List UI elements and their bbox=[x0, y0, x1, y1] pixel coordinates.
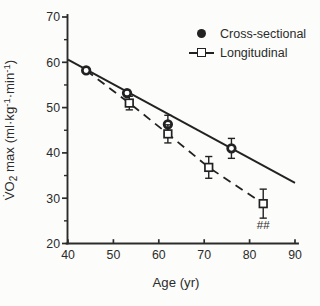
x-tick-label: 60 bbox=[152, 248, 166, 262]
regression-line-cross-sectional bbox=[68, 60, 295, 183]
x-axis-title: Age (yr) bbox=[153, 275, 200, 290]
data-point-square bbox=[205, 164, 213, 172]
y-tick-label: 20 bbox=[46, 237, 60, 251]
open-square-line-icon bbox=[187, 43, 216, 62]
x-tick-label: 80 bbox=[243, 248, 257, 262]
series-longitudinal bbox=[125, 96, 267, 218]
y-axis-ticks: 706050403020 bbox=[46, 10, 67, 251]
y-tick-label: 30 bbox=[46, 192, 60, 206]
x-axis-ticks: 405060708090 bbox=[61, 239, 302, 261]
y-tick-label: 60 bbox=[46, 56, 60, 70]
legend-label-cross-sectional: Cross-sectional bbox=[220, 27, 306, 41]
legend-item-longitudinal: Longitudinal bbox=[187, 43, 306, 62]
x-tick-label: 90 bbox=[288, 248, 302, 262]
legend-item-cross-sectional: Cross-sectional bbox=[187, 24, 306, 43]
y-tick-label: 50 bbox=[46, 101, 60, 115]
x-tick-label: 40 bbox=[61, 248, 75, 262]
y-tick-label: 70 bbox=[46, 10, 60, 24]
vo2max-age-chart: 706050403020405060708090Age (yr)V̇O2 max… bbox=[0, 0, 320, 306]
filled-circle-icon bbox=[187, 24, 216, 43]
y-axis-title: V̇O2 max (ml·kg-1·min-1) bbox=[1, 60, 19, 200]
x-tick-label: 70 bbox=[197, 248, 211, 262]
data-point-square bbox=[164, 130, 172, 138]
y-tick-label: 40 bbox=[46, 146, 60, 160]
data-point-square bbox=[259, 200, 267, 208]
data-point-square bbox=[125, 99, 133, 107]
data-point-circle bbox=[82, 67, 90, 75]
x-tick-label: 50 bbox=[107, 248, 121, 262]
legend: Cross-sectional Longitudinal bbox=[187, 24, 306, 62]
significance-annotation: ## bbox=[257, 219, 270, 231]
legend-label-longitudinal: Longitudinal bbox=[220, 46, 287, 60]
dashed-line-longitudinal bbox=[86, 70, 263, 203]
data-point-circle bbox=[228, 145, 236, 153]
